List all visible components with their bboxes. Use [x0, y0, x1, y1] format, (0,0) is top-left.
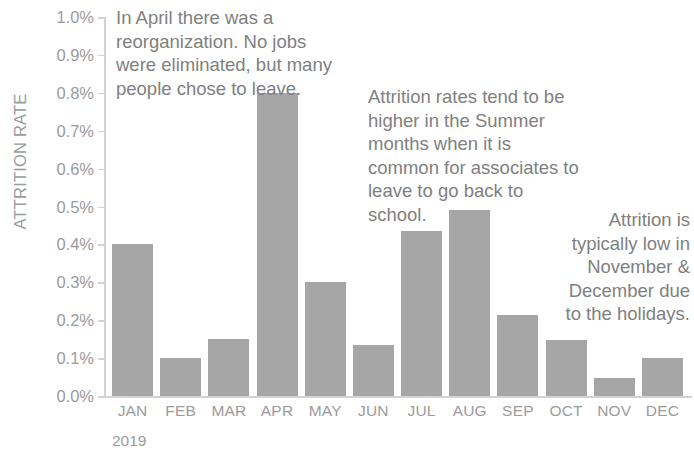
y-axis-tick-label: 0.6%	[34, 159, 94, 178]
bar-sep	[497, 315, 538, 396]
annotation-holiday-low: Attrition is typically low in November &…	[520, 208, 690, 326]
y-axis-tick-mark	[98, 207, 104, 209]
y-axis-tick-mark	[98, 358, 104, 360]
y-axis-tick-mark	[98, 282, 104, 284]
annotation-april-reorganization: In April there was a reorganization. No …	[116, 6, 384, 100]
annotation-summer-attrition: Attrition rates tend to be higher in the…	[368, 85, 624, 226]
y-axis-tick-mark	[98, 17, 104, 19]
x-axis-tick-label: MAR	[208, 402, 249, 420]
y-axis-tick-label: 0.3%	[34, 273, 94, 292]
x-axis-tick-label: JUN	[353, 402, 394, 420]
x-axis-tick-label: APR	[257, 402, 298, 420]
bar-nov	[594, 378, 635, 396]
y-axis-tick-label: 1.0%	[34, 8, 94, 27]
y-axis-tick-mark	[98, 131, 104, 133]
x-axis-tick-label: MAY	[305, 402, 346, 420]
y-axis-tick-label: 0.5%	[34, 197, 94, 216]
y-axis-tick-label: 0.1%	[34, 349, 94, 368]
bar-aug	[449, 210, 490, 396]
y-axis-tick-mark	[98, 169, 104, 171]
y-axis-tick-label: 0.2%	[34, 311, 94, 330]
y-axis-tick-mark	[98, 93, 104, 95]
y-axis-tick-label: 0.7%	[34, 121, 94, 140]
x-axis-line	[104, 396, 692, 398]
y-axis-tick-mark	[98, 320, 104, 322]
bar-dec	[642, 358, 683, 396]
bar-jan	[112, 244, 153, 396]
y-axis-tick-mark	[98, 244, 104, 246]
x-axis-tick-label: DEC	[642, 402, 683, 420]
x-axis-tick-label: JUL	[401, 402, 442, 420]
y-axis-tick-mark	[98, 55, 104, 57]
bar-oct	[546, 340, 587, 396]
bar-mar	[208, 339, 249, 396]
y-axis-tick-label: 0.9%	[34, 45, 94, 64]
y-axis-line	[104, 17, 106, 397]
x-axis-tick-label: JAN	[112, 402, 153, 420]
x-axis-tick-label: NOV	[594, 402, 635, 420]
y-axis-tick-mark	[98, 396, 104, 398]
bar-feb	[160, 358, 201, 396]
attrition-rate-bar-chart: ATTRITION RATE 1.0%0.9%0.8%0.7%0.6%0.5%0…	[0, 0, 694, 476]
y-axis-tick-label: 0.4%	[34, 235, 94, 254]
x-axis-tick-label: OCT	[546, 402, 587, 420]
y-axis-tick-label: 0.0%	[34, 387, 94, 406]
x-axis-tick-label: AUG	[449, 402, 490, 420]
bar-may	[305, 282, 346, 396]
y-axis-tick-label: 0.8%	[34, 83, 94, 102]
x-axis-tick-label: FEB	[160, 402, 201, 420]
bar-jul	[401, 231, 442, 396]
bar-jun	[353, 345, 394, 396]
x-axis-group-label: 2019	[112, 432, 146, 450]
x-axis-tick-label: SEP	[497, 402, 538, 420]
bar-apr	[257, 93, 298, 396]
